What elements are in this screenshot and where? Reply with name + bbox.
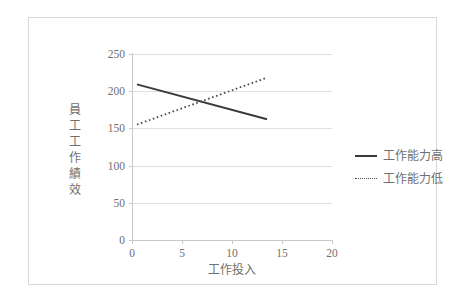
legend-item-low-ability: 工作能力低 — [354, 167, 461, 190]
x-tick-mark-20 — [332, 240, 333, 244]
y-tick-mark-200 — [129, 91, 133, 92]
x-tick-label-15: 15 — [267, 248, 297, 260]
y-axis-title-char-5: 績 — [67, 166, 83, 182]
y-axis-title: 員 工 工 作 績 效 — [67, 102, 83, 198]
x-tick-label-0: 0 — [117, 248, 147, 260]
y-tick-mark-250 — [129, 54, 133, 55]
legend-label-high-ability: 工作能力高 — [383, 150, 443, 162]
gridline-250 — [132, 54, 332, 55]
y-tick-label-200: 200 — [89, 86, 125, 98]
y-tick-label-150: 150 — [89, 123, 125, 135]
plot-area — [132, 54, 332, 240]
x-tick-mark-15 — [282, 240, 283, 244]
x-axis-ticks: 0 5 10 15 20 — [132, 240, 332, 262]
y-tick-mark-50 — [129, 203, 133, 204]
x-axis-title: 工作投入 — [132, 264, 332, 277]
y-axis-title-char-3: 工 — [67, 134, 83, 150]
y-tick-mark-100 — [129, 166, 133, 167]
x-tick-label-10: 10 — [217, 248, 247, 260]
y-axis-title-char-6: 效 — [67, 182, 83, 198]
x-tick-label-5: 5 — [167, 248, 197, 260]
y-tick-label-50: 50 — [89, 198, 125, 210]
y-axis-tick-labels: 250 200 150 100 50 0 — [85, 54, 125, 240]
legend-item-high-ability: 工作能力高 — [354, 144, 461, 167]
y-tick-mark-150 — [129, 128, 133, 129]
y-tick-label-250: 250 — [89, 49, 125, 61]
x-tick-label-20: 20 — [317, 248, 347, 260]
y-tick-label-100: 100 — [89, 161, 125, 173]
y-axis-title-char-4: 作 — [67, 150, 83, 166]
gridline-50 — [132, 203, 332, 204]
x-tick-mark-0 — [132, 240, 133, 244]
legend-solid-line-icon — [354, 151, 378, 161]
y-axis-title-char-1: 員 — [67, 102, 83, 118]
x-tick-mark-5 — [182, 240, 183, 244]
legend-dotted-line-icon — [354, 174, 378, 184]
x-tick-mark-10 — [232, 240, 233, 244]
y-axis-title-char-2: 工 — [67, 118, 83, 134]
legend-label-low-ability: 工作能力低 — [383, 173, 443, 185]
gridline-100 — [132, 166, 332, 167]
gridline-150 — [132, 128, 332, 129]
chart-frame: 250 200 150 100 50 0 員 工 工 作 績 效 0 5 — [28, 17, 437, 285]
y-tick-label-0: 0 — [89, 235, 125, 247]
chart-legend: 工作能力高 工作能力低 — [354, 144, 461, 190]
gridline-200 — [132, 91, 332, 92]
chart-figure: 250 200 150 100 50 0 員 工 工 作 績 效 0 5 — [0, 0, 461, 304]
